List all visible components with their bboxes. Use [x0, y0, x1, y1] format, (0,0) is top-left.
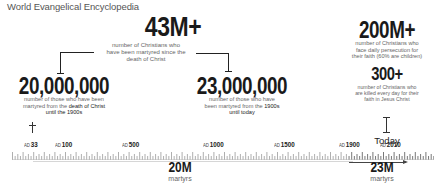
era-year: 1500: [281, 140, 295, 149]
ad-prefix: AD: [203, 142, 209, 148]
daily-killed-description: number of Christians who are killed ever…: [345, 84, 429, 102]
segment-modern-label: martyrs: [360, 175, 404, 182]
cross-icon-bar: [29, 125, 36, 126]
modern-martyrs-value: 23,000,000: [194, 75, 291, 97]
desc-line: number of those who have been: [8, 96, 120, 103]
source-title: World Evangelical Encyclopedia: [7, 1, 139, 12]
today-marker-base: [383, 132, 390, 133]
desc-emphasis: 1900s: [264, 103, 279, 109]
ad-prefix: AD: [274, 142, 280, 148]
segment-early-value: 20M: [161, 160, 198, 174]
era-label-500: AD500: [122, 140, 139, 149]
desc-emphasis: until today: [229, 109, 255, 115]
segment-modern-value: 23M: [363, 160, 400, 174]
desc-line: number of Christians who: [345, 40, 429, 47]
era-year: 1000: [210, 140, 224, 149]
era-year: 33: [31, 140, 38, 149]
ad-prefix: AD: [122, 142, 128, 148]
desc-line: martyred from the death of Christ: [8, 103, 120, 110]
era-year: 100: [62, 140, 72, 149]
desc-line: death of Christ: [96, 56, 196, 63]
persecuted-description: number of Christians who face daily pers…: [345, 40, 429, 60]
cross-icon: [32, 122, 33, 133]
era-label-1900: AD1900: [339, 140, 360, 149]
desc-line: number of Christians who: [96, 42, 196, 49]
persecuted-value: 200M+: [354, 19, 420, 41]
ad-prefix: AD: [380, 142, 386, 148]
desc-line: been martyred from the 1900s: [186, 103, 298, 110]
arrow-right-icon: [403, 160, 408, 164]
desc-line: until today: [186, 109, 298, 116]
desc-line: number of those who have: [186, 96, 298, 103]
era-label-2010: AD2010: [380, 140, 401, 149]
era-year: 2010: [387, 140, 401, 149]
daily-killed-value: 300+: [368, 66, 406, 83]
bracket-left: [60, 52, 94, 74]
era-label-1000: AD1000: [203, 140, 224, 149]
desc-line: their faith (60% are children): [345, 53, 429, 60]
segment-early-label: martyrs: [158, 175, 202, 182]
ad-prefix: AD: [339, 142, 345, 148]
total-martyrs-value: 43M+: [128, 13, 218, 41]
desc-line: face daily persecution for: [345, 47, 429, 54]
total-martyrs-description: number of Christians who have been marty…: [96, 42, 196, 64]
modern-martyrs-description: number of those who have been martyred f…: [186, 96, 298, 116]
era-year: 500: [129, 140, 139, 149]
desc-line: until the 1900s: [8, 109, 120, 116]
desc-line: faith in Jesus Christ: [345, 96, 429, 102]
bracket-right-cap: [225, 71, 232, 72]
desc-line: have been martyred since the: [96, 49, 196, 56]
desc-emphasis: death of Christ: [69, 103, 105, 109]
today-marker-line: [386, 117, 387, 133]
era-label-100: AD100: [55, 140, 72, 149]
ad-prefix: AD: [55, 142, 61, 148]
era-label-1500: AD1500: [274, 140, 295, 149]
early-martyrs-value: 20,000,000: [16, 75, 113, 97]
early-martyrs-description: number of those who have been martyred f…: [8, 96, 120, 116]
ad-prefix: AD: [24, 142, 30, 148]
era-label-33: AD33: [24, 140, 38, 149]
desc-text: been martyred from the: [205, 103, 263, 109]
era-year: 1900: [346, 140, 360, 149]
desc-text: martyred from the: [23, 103, 67, 109]
bracket-right: [196, 53, 229, 72]
desc-emphasis: until the 1900s: [46, 109, 82, 115]
